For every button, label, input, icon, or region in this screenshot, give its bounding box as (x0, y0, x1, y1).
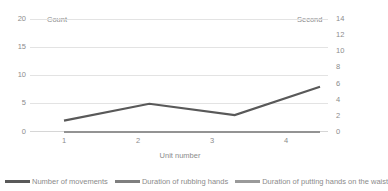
legend-label: Duration of rubbing hands (142, 177, 228, 186)
series-line-number-of-movements (64, 87, 320, 121)
legend-item-duration-of-rubbing-hands[interactable]: Duration of rubbing hands (115, 177, 228, 186)
right-axis-tick-2: 2 (336, 112, 358, 120)
legend-item-duration-of-putting-hands-on-the-waist[interactable]: Duration of putting hands on the waist (235, 177, 388, 186)
legend-label: Number of movements (32, 177, 108, 186)
x-axis-tick-3: 3 (200, 137, 224, 145)
left-axis-tick-20: 20 (4, 15, 26, 23)
right-axis-tick-4: 4 (336, 96, 358, 104)
right-axis-tick-6: 6 (336, 80, 358, 88)
right-axis-tick-0: 0 (336, 128, 358, 136)
legend-swatch-icon (5, 180, 30, 183)
x-axis-tick-1: 1 (52, 137, 76, 145)
x-axis-tick-4: 4 (274, 137, 298, 145)
legend-swatch-icon (235, 180, 260, 183)
legend-swatch-icon (115, 180, 140, 183)
series-lines (30, 19, 328, 132)
left-axis-tick-15: 15 (4, 43, 26, 51)
right-axis-tick-10: 10 (336, 47, 358, 55)
left-axis-tick-10: 10 (4, 71, 26, 79)
legend-label: Duration of putting hands on the waist (262, 177, 388, 186)
plot-area (30, 19, 328, 132)
left-axis-tick-5: 5 (4, 99, 26, 107)
left-axis-tick-0: 0 (4, 128, 26, 136)
x-axis-tick-2: 2 (126, 137, 150, 145)
chart-legend: Number of movements Duration of rubbing … (0, 172, 360, 191)
legend-item-number-of-movements[interactable]: Number of movements (5, 177, 108, 186)
right-axis-tick-14: 14 (336, 15, 358, 23)
x-axis-title: Unit number (0, 151, 360, 160)
right-axis-tick-12: 12 (336, 31, 358, 39)
right-axis-tick-8: 8 (336, 63, 358, 71)
